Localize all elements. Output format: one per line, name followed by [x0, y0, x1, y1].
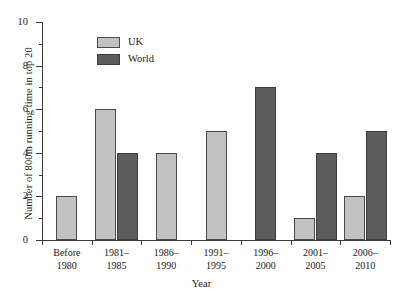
- bar-uk-3: [206, 131, 227, 240]
- x-category-label-2: 1986–1990: [154, 247, 179, 272]
- y-tick-6: 6: [36, 109, 42, 110]
- bar-uk-2: [156, 153, 177, 240]
- y-tick-label-0: 0: [23, 235, 28, 246]
- x-tick-4: [241, 240, 242, 245]
- y-minor-tick-1: [39, 218, 43, 219]
- y-minor-tick-9: [39, 44, 43, 45]
- legend-label-uk: UK: [128, 37, 143, 48]
- x-category-label-0: Before1980: [53, 247, 80, 272]
- x-category-label-5: 2001–2005: [303, 247, 328, 272]
- x-category-label-4: 1996–2000: [253, 247, 278, 272]
- legend-label-world: World: [128, 54, 154, 65]
- x-tick-7: [390, 240, 391, 245]
- bar-world-1: [117, 153, 138, 240]
- bar-uk-1: [95, 109, 116, 240]
- plot-area: 0246810 Before19801981–19851986–19901991…: [42, 22, 390, 240]
- x-tick-5: [291, 240, 292, 245]
- x-tick-2: [141, 240, 142, 245]
- legend-swatch-uk-icon: [97, 37, 120, 48]
- bar-world-5: [316, 153, 337, 240]
- y-tick-4: 4: [36, 153, 42, 154]
- legend: UK World: [97, 36, 154, 70]
- legend-swatch-world-icon: [97, 54, 120, 65]
- x-category-label-6: 2006–2010: [353, 247, 378, 272]
- y-axis-line: [42, 22, 43, 241]
- bar-uk-0: [56, 196, 77, 240]
- x-axis-title: Year: [0, 278, 403, 289]
- legend-item-uk: UK: [97, 36, 154, 48]
- x-tick-3: [191, 240, 192, 245]
- bar-chart: Number of 800m running time in top 20 02…: [0, 0, 403, 302]
- x-axis-line: [42, 240, 390, 241]
- y-minor-tick-5: [39, 131, 43, 132]
- y-tick-label-6: 6: [23, 104, 28, 115]
- y-tick-label-2: 2: [23, 191, 28, 202]
- x-category-label-1: 1981–1985: [104, 247, 129, 272]
- y-tick-2: 2: [36, 196, 42, 197]
- y-tick-label-4: 4: [23, 148, 28, 159]
- y-tick-8: 8: [36, 66, 42, 67]
- bar-uk-6: [344, 196, 365, 240]
- x-tick-6: [340, 240, 341, 245]
- x-tick-0: [42, 240, 43, 245]
- bar-world-4: [255, 87, 276, 240]
- y-tick-label-8: 8: [23, 60, 28, 71]
- legend-item-world: World: [97, 53, 154, 65]
- bar-world-6: [366, 131, 387, 240]
- y-minor-tick-3: [39, 175, 43, 176]
- y-minor-tick-7: [39, 87, 43, 88]
- y-tick-label-10: 10: [18, 17, 29, 28]
- x-category-label-3: 1991–1995: [204, 247, 229, 272]
- bar-uk-5: [294, 218, 315, 240]
- y-tick-10: 10: [36, 22, 42, 23]
- x-tick-1: [92, 240, 93, 245]
